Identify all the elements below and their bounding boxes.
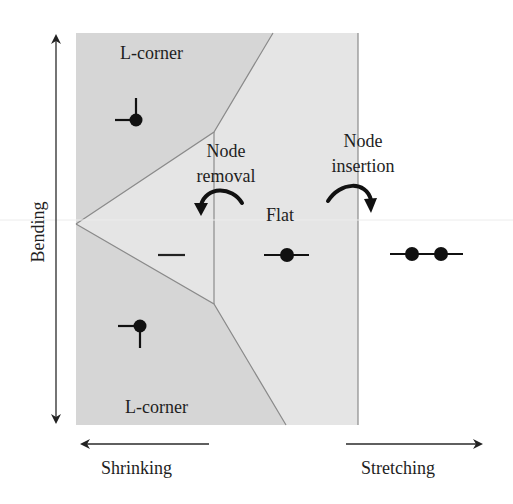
top-l-corner-label: L-corner [120,43,183,63]
shrinking-axis-label: Shrinking [101,458,172,478]
node-removal-line2: removal [186,166,266,186]
bending-axis-label: Bending [28,194,48,270]
flat-label: Flat [266,205,294,225]
node-removal-label: Node removal [186,141,266,186]
stretched-nodes-icon [390,247,463,261]
bending-stretching-diagram [0,0,513,504]
node-insertion-line2: insertion [320,156,406,176]
node-removal-line1: Node [186,141,266,161]
node-insertion-line1: Node [320,131,406,151]
node-insertion-label: Node insertion [320,131,406,176]
regions [76,33,358,425]
bottom-l-corner-label: L-corner [125,397,188,417]
stretching-axis-label: Stretching [361,458,435,478]
